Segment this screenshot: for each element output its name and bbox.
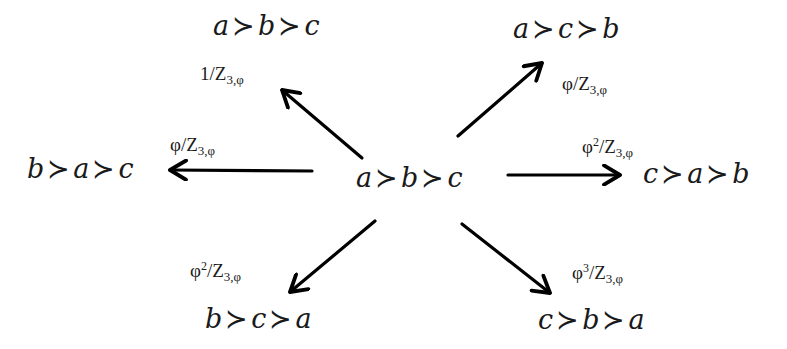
succ-operator: ≻ <box>269 303 292 334</box>
rank-item: b <box>27 153 44 184</box>
succ-operator: ≻ <box>421 162 444 193</box>
weight-subscript: 3,φ <box>616 145 633 160</box>
arrow-to-bottom-right <box>462 224 550 293</box>
succ-operator: ≻ <box>278 10 301 41</box>
ranking-right: c≻a≻b <box>643 160 750 187</box>
ranking-top-left: a≻b≻c <box>213 12 320 39</box>
weight-right: φ2/Z3,φ <box>582 136 633 159</box>
rank-item: a <box>73 153 89 184</box>
succ-operator: ≻ <box>232 10 255 41</box>
weight-subscript: 3,φ <box>606 271 623 286</box>
succ-operator: ≻ <box>602 304 625 335</box>
weight-top-left: 1/Z3,φ <box>200 63 244 86</box>
succ-operator: ≻ <box>92 153 115 184</box>
weight-left: φ/Z3,φ <box>170 134 215 157</box>
weight-denominator: Z <box>604 136 616 157</box>
weight-denominator: Z <box>186 134 198 155</box>
rank-item: b <box>258 10 275 41</box>
rank-item: c <box>643 158 658 189</box>
arrow-to-top-right <box>458 63 542 136</box>
weight-numerator: 1 <box>200 63 210 84</box>
rank-item: c <box>118 153 133 184</box>
weight-subscript: 3,φ <box>226 72 243 87</box>
succ-operator: ≻ <box>532 13 555 44</box>
ranking-top-right: a≻c≻b <box>513 15 620 42</box>
succ-operator: ≻ <box>556 304 579 335</box>
weight-denominator: Z <box>212 260 224 281</box>
weight-numerator: φ <box>562 73 573 94</box>
center-item-1: a <box>356 162 372 193</box>
succ-operator: ≻ <box>375 162 398 193</box>
weight-denominator: Z <box>215 63 227 84</box>
center-item-2: b <box>401 162 418 193</box>
succ-operator: ≻ <box>576 13 599 44</box>
weight-numerator: φ <box>572 262 583 283</box>
rank-item: a <box>687 158 703 189</box>
ranking-bottom-right: c≻b≻a <box>538 306 645 333</box>
weight-denominator: Z <box>594 262 606 283</box>
rank-item: a <box>513 13 529 44</box>
weight-subscript: 3,φ <box>590 82 607 97</box>
rank-item: c <box>251 303 266 334</box>
center-ranking: a≻b≻c <box>356 164 463 191</box>
center-item-3: c <box>447 162 462 193</box>
rank-item: b <box>602 13 619 44</box>
weight-subscript: 3,φ <box>198 143 215 158</box>
weight-bottom-right: φ3/Z3,φ <box>572 262 623 285</box>
rank-item: c <box>304 10 319 41</box>
weight-numerator: φ <box>582 136 593 157</box>
arrow-to-bottom-left <box>290 221 375 292</box>
weight-denominator: Z <box>578 73 590 94</box>
succ-operator: ≻ <box>661 158 684 189</box>
rank-item: a <box>628 304 644 335</box>
weight-subscript: 3,φ <box>224 269 241 284</box>
ranking-bottom-left: b≻c≻a <box>205 305 312 332</box>
ranking-left: b≻a≻c <box>27 155 134 182</box>
rank-item: a <box>295 303 311 334</box>
succ-operator: ≻ <box>225 303 248 334</box>
succ-operator: ≻ <box>47 153 70 184</box>
weight-top-right: φ/Z3,φ <box>562 73 607 96</box>
weight-bottom-left: φ2/Z3,φ <box>190 260 241 283</box>
weight-numerator: φ <box>190 260 201 281</box>
arrow-to-top-left <box>282 90 362 158</box>
succ-operator: ≻ <box>706 158 729 189</box>
weight-numerator: φ <box>170 134 181 155</box>
rank-item: c <box>558 13 573 44</box>
rank-item: b <box>732 158 749 189</box>
diagram-canvas: a≻b≻c a≻b≻c 1/Z3,φ a≻c≻b φ/Z3,φ b≻a≻c φ/… <box>0 0 787 349</box>
rank-item: b <box>582 304 599 335</box>
arrow-to-left <box>170 170 312 171</box>
rank-item: a <box>213 10 229 41</box>
rank-item: c <box>538 304 553 335</box>
rank-item: b <box>205 303 222 334</box>
